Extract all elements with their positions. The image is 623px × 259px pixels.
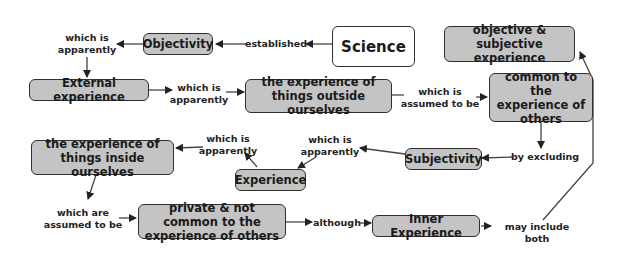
link-which-is-apparently-1: which is apparently bbox=[58, 32, 116, 56]
node-inner-experience[interactable]: Inner Experience bbox=[372, 215, 480, 237]
link-which-is-assumed-to-be: which is assumed to be bbox=[401, 86, 480, 110]
link-which-are-assumed-to-be: which are assumed to be bbox=[44, 207, 123, 231]
link-which-is-apparently-4: which is apparently bbox=[199, 133, 257, 157]
node-external-experience[interactable]: External experience bbox=[29, 79, 149, 101]
link-although: although bbox=[313, 217, 361, 229]
node-experience[interactable]: Experience bbox=[235, 169, 306, 191]
link-which-is-apparently-3: which is apparently bbox=[301, 134, 359, 158]
node-common-to-others[interactable]: common to the experience of others bbox=[489, 73, 593, 122]
concept-map: Science Objectivity External experience … bbox=[0, 0, 623, 259]
node-objective-subjective[interactable]: objective & subjective experience bbox=[444, 26, 575, 62]
link-may-include-both: may include both bbox=[494, 221, 580, 245]
node-subjectivity[interactable]: Subjectivity bbox=[405, 148, 482, 170]
link-established: established bbox=[245, 38, 307, 50]
node-objectivity[interactable]: Objectivity bbox=[143, 33, 213, 55]
link-by-excluding: by excluding bbox=[511, 151, 579, 163]
node-things-outside[interactable]: the experience of things outside ourselv… bbox=[245, 79, 392, 113]
node-things-inside[interactable]: the experience of things inside ourselve… bbox=[31, 140, 174, 175]
node-private[interactable]: private & not common to the experience o… bbox=[138, 204, 286, 239]
link-which-is-apparently-2: which is apparently bbox=[170, 82, 228, 106]
node-science[interactable]: Science bbox=[332, 26, 415, 67]
